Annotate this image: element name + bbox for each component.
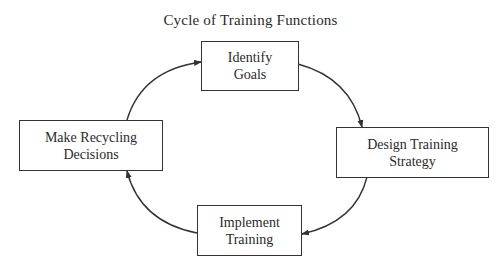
node-identify-goals: Identify Goals [201,41,299,91]
arrow-recycling-to-goals [127,62,201,120]
node-label-line1: Implement [219,214,280,231]
node-label-line2: Decisions [63,146,118,163]
node-label-line2: Strategy [389,153,436,170]
node-label-line1: Identify [228,49,272,66]
arrow-implement-to-recycling [127,171,197,233]
node-label-line2: Training [226,231,274,248]
arrow-design-to-implement [302,177,367,234]
node-make-recycling-decisions: Make Recycling Decisions [19,120,163,171]
node-label-line1: Design Training [367,136,458,153]
node-label-line2: Goals [234,66,267,83]
node-implement-training: Implement Training [197,205,302,256]
node-design-training-strategy: Design Training Strategy [336,127,489,178]
node-label-line1: Make Recycling [45,129,137,146]
arrow-goals-to-design [298,64,362,127]
